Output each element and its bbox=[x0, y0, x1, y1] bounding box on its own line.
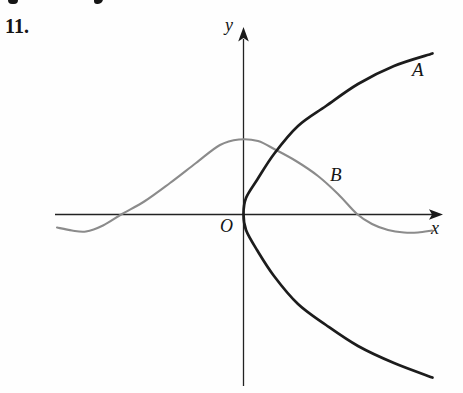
x-axis-label: x bbox=[431, 218, 439, 239]
curve-a bbox=[244, 54, 433, 378]
curve-b-label: B bbox=[330, 164, 342, 186]
textbook-figure: 11. y x O A B bbox=[0, 0, 463, 393]
graph-canvas bbox=[0, 0, 463, 393]
origin-label: O bbox=[220, 216, 233, 237]
curve-a-label: A bbox=[412, 59, 424, 81]
y-axis-label: y bbox=[225, 15, 233, 36]
